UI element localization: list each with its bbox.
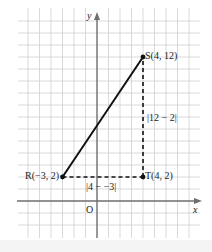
vertical-distance-label: |12 − 2| — [147, 112, 177, 123]
bottom-band — [0, 240, 212, 252]
point-R-label: R(−3, 2) — [25, 170, 59, 182]
point-R — [60, 175, 65, 180]
point-T-label: T(4, 2) — [145, 170, 173, 182]
origin-label: O — [86, 204, 93, 215]
grid — [18, 8, 200, 238]
coordinate-plane-diagram: y x O S(4, 12) R(−3, 2) T(4, 2) |4 − −3|… — [0, 0, 212, 252]
x-axis-label: x — [192, 204, 198, 215]
axes — [17, 12, 202, 238]
point-S-label: S(4, 12) — [145, 50, 177, 62]
horizontal-distance-label: |4 − −3| — [86, 181, 116, 192]
y-axis-arrow-icon — [94, 12, 100, 20]
y-axis-label: y — [86, 10, 92, 21]
